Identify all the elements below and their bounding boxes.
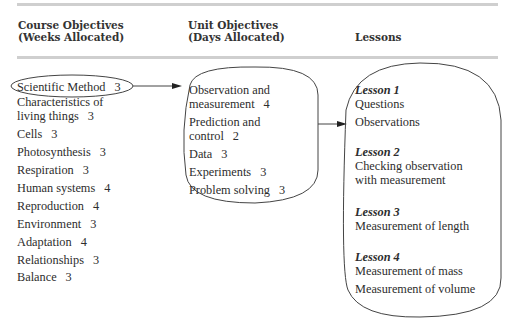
course-item[interactable]: Characteristics of — [17, 95, 103, 109]
course-weeks: 4 — [93, 199, 99, 213]
unit-item-cont: measurement4 — [189, 97, 270, 111]
unit-days: 4 — [264, 97, 270, 111]
lesson-item[interactable]: Checking observation — [355, 159, 463, 173]
unit-label: Observation and — [189, 83, 270, 97]
lesson-title: Lesson 4 — [355, 250, 400, 264]
unit-item[interactable]: Data3 — [189, 147, 227, 161]
course-label: Scientific Method — [17, 80, 105, 94]
unit-label: control — [189, 129, 224, 143]
course-label: Environment — [17, 217, 81, 231]
course-weeks: 4 — [104, 181, 110, 195]
lesson-title: Lesson 2 — [355, 145, 400, 159]
course-label: Photosynthesis — [17, 145, 91, 159]
unit-label: measurement — [189, 97, 255, 111]
lesson-title: Lesson 3 — [355, 205, 400, 219]
unit-item[interactable]: Observation and — [189, 83, 270, 97]
course-label: Respiration — [17, 163, 74, 177]
unit-item[interactable]: Prediction and — [189, 115, 260, 129]
unit-days: 2 — [233, 129, 239, 143]
course-item[interactable]: Environment3 — [17, 217, 96, 231]
course-item[interactable]: Balance3 — [17, 270, 72, 284]
lesson-title: Lesson 1 — [355, 83, 400, 97]
lesson-item[interactable]: Measurement of mass — [355, 264, 463, 278]
course-label: Reproduction — [17, 199, 84, 213]
lesson-item-cont: with measurement — [355, 173, 446, 187]
lesson-item[interactable]: Measurement of length — [355, 219, 469, 233]
unit-item[interactable]: Experiments3 — [189, 165, 266, 179]
course-weeks: 3 — [100, 145, 106, 159]
course-item[interactable]: Respiration3 — [17, 163, 89, 177]
course-label: Balance — [17, 270, 57, 284]
unit-item[interactable]: Problem solving3 — [189, 183, 285, 197]
course-weeks: 3 — [88, 109, 94, 123]
unit-item-cont: control2 — [189, 129, 239, 143]
course-weeks: 3 — [83, 163, 89, 177]
course-label: Relationships — [17, 253, 84, 267]
unit-label: Problem solving — [189, 183, 270, 197]
course-item[interactable]: Photosynthesis3 — [17, 145, 106, 159]
unit-days: 3 — [279, 183, 285, 197]
lesson-item[interactable]: Questions — [355, 97, 404, 111]
course-item[interactable]: Scientific Method3 — [17, 80, 121, 94]
unit-label: Prediction and — [189, 115, 260, 129]
course-weeks: 3 — [51, 127, 57, 141]
arrowhead-1 — [172, 83, 182, 89]
course-weeks: 4 — [81, 235, 87, 249]
course-label: Adaptation — [17, 235, 72, 249]
course-item[interactable]: Human systems4 — [17, 181, 110, 195]
lesson-item[interactable]: Measurement of volume — [355, 282, 475, 296]
course-weeks: 3 — [66, 270, 72, 284]
course-weeks: 3 — [93, 253, 99, 267]
unit-label: Experiments — [189, 165, 251, 179]
course-weeks: 3 — [90, 217, 96, 231]
course-label: Human systems — [17, 181, 95, 195]
course-item[interactable]: Reproduction4 — [17, 199, 99, 213]
course-label: Characteristics of — [17, 95, 103, 109]
course-label: Cells — [17, 127, 42, 141]
lesson-item[interactable]: Observations — [355, 115, 420, 129]
course-item[interactable]: Relationships3 — [17, 253, 99, 267]
unit-days: 3 — [260, 165, 266, 179]
course-item[interactable]: Cells3 — [17, 127, 57, 141]
course-item-cont: living things3 — [17, 109, 94, 123]
unit-label: Data — [189, 147, 212, 161]
course-item[interactable]: Adaptation4 — [17, 235, 87, 249]
unit-days: 3 — [221, 147, 227, 161]
course-weeks: 3 — [114, 80, 120, 94]
course-label: living things — [17, 109, 79, 123]
